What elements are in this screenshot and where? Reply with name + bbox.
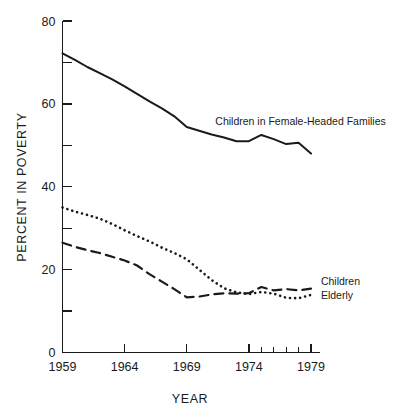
series-label-1: Children xyxy=(321,275,360,287)
series-annotations: Children in Female-Headed FamiliesChildr… xyxy=(215,115,385,302)
poverty-line-chart: 020406080 19591964196919741979 Children … xyxy=(0,0,419,417)
series-line-0 xyxy=(63,53,312,153)
x-tick-label: 1969 xyxy=(173,360,201,374)
x-tick-label: 1964 xyxy=(111,360,139,374)
chart-container: 020406080 19591964196919741979 Children … xyxy=(0,0,419,417)
series-label-2: Elderly xyxy=(321,289,354,301)
x-axis-ticks: 19591964196919741979 xyxy=(49,344,325,374)
x-tick-label: 1959 xyxy=(49,360,77,374)
data-series-group xyxy=(63,53,312,298)
x-tick-label: 1974 xyxy=(235,360,263,374)
x-tick-label: 1979 xyxy=(297,360,325,374)
x-axis-title: YEAR xyxy=(172,392,208,406)
y-tick-label: 80 xyxy=(42,15,56,29)
y-axis-title: PERCENT IN POVERTY xyxy=(15,112,29,261)
y-tick-label: 60 xyxy=(42,97,56,111)
y-tick-label: 20 xyxy=(42,263,56,277)
series-label-0: Children in Female-Headed Families xyxy=(215,115,385,127)
y-tick-label: 0 xyxy=(49,346,56,360)
series-line-1 xyxy=(63,243,312,298)
y-axis-ticks: 020406080 xyxy=(42,15,72,361)
axes xyxy=(63,21,321,353)
y-tick-label: 40 xyxy=(42,180,56,194)
